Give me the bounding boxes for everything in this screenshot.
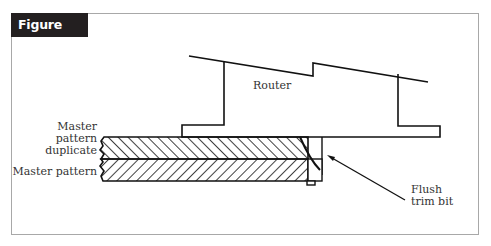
bit-leader-line <box>332 158 405 200</box>
master-pattern-board <box>100 159 308 181</box>
master-pattern-duplicate-board <box>100 137 308 159</box>
flush-trim-bit-label: Flush trim bit <box>411 184 453 208</box>
bit-label-line2: trim bit <box>411 196 453 208</box>
master-pattern-label: Master pattern <box>7 166 97 178</box>
router-label: Router <box>253 80 291 92</box>
router-body <box>182 56 440 137</box>
leader-arrowhead-icon <box>327 155 335 161</box>
master-duplicate-line3: duplicate <box>17 145 97 157</box>
master-pattern-duplicate-label: Master pattern duplicate <box>17 121 97 157</box>
